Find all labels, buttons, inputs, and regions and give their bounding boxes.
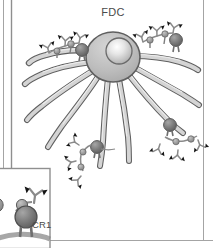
receptor-node: [147, 37, 153, 43]
cr1-receptor: [170, 34, 183, 47]
fdc-figure: FDC: [0, 0, 213, 248]
nucleus: [106, 38, 132, 64]
cr1-label: CR1: [32, 219, 52, 230]
fdc-cell-body: [86, 32, 140, 82]
cr1-detail-inset: CR1: [0, 169, 52, 248]
cr1-receptor: [91, 141, 104, 154]
receptor-node: [68, 41, 75, 48]
cr1-stalk: [20, 227, 21, 237]
cr1-receptor: [76, 44, 89, 57]
receptor-node: [173, 138, 179, 144]
fdc-diagram-canvas: FDC: [0, 0, 213, 248]
receptor-node: [162, 31, 168, 37]
receptor-node: [188, 136, 194, 142]
receptor-node: [80, 149, 86, 155]
fdc-label: FDC: [101, 6, 125, 18]
receptor-node: [54, 48, 60, 54]
receptor-node: [78, 164, 84, 170]
cr1-receptor: [164, 119, 177, 132]
